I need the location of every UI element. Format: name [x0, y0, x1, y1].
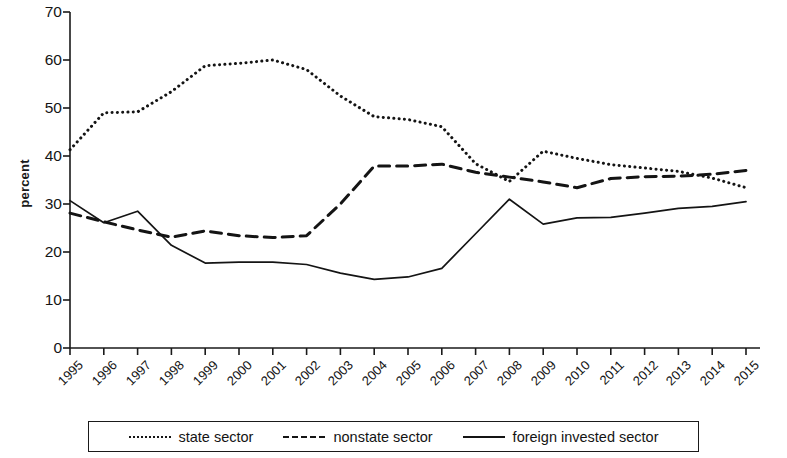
y-tick-label: 0	[28, 340, 62, 356]
y-tick-label: 70	[28, 4, 62, 20]
legend-swatch-solid-icon	[463, 436, 505, 438]
legend-swatch-dashed-icon	[283, 436, 325, 438]
legend-label: state sector	[179, 429, 254, 445]
y-tick-label: 50	[28, 100, 62, 116]
y-tick-label: 40	[28, 148, 62, 164]
legend-swatch-dotted-icon	[129, 436, 171, 438]
legend-label: foreign invested sector	[513, 429, 659, 445]
legend-item: state sector	[129, 429, 254, 445]
y-tick-label: 30	[28, 196, 62, 212]
chart-legend: state sectornonstate sectorforeign inves…	[88, 421, 699, 452]
y-tick-label: 20	[28, 244, 62, 260]
legend-item: nonstate sector	[283, 429, 432, 445]
legend-label: nonstate sector	[333, 429, 432, 445]
legend-item: foreign invested sector	[463, 429, 659, 445]
line-chart: percent 010203040506070 1995199619971998…	[0, 0, 787, 458]
series-line-dotted	[70, 60, 746, 188]
y-tick-label: 60	[28, 52, 62, 68]
series-line-solid	[70, 199, 746, 279]
y-tick-label: 10	[28, 292, 62, 308]
series-line-dashed	[70, 164, 746, 237]
